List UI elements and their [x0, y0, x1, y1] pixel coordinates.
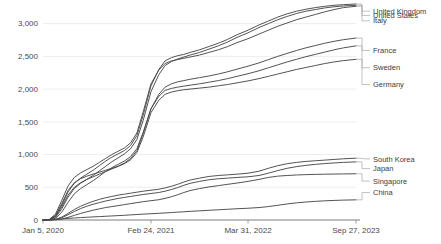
series-leader-lines: [356, 4, 370, 200]
series-line-italy: [43, 6, 356, 220]
y-axis-tick-label: 0: [34, 216, 39, 225]
series-label-singapore[interactable]: Singapore: [373, 177, 407, 186]
line-chart-container: 05001,0001,5002,0002,5003,000 Jan 5, 202…: [0, 0, 441, 244]
series-label-germany[interactable]: Germany: [373, 80, 404, 89]
series-line-sweden: [43, 46, 356, 220]
series-label-japan[interactable]: Japan: [373, 164, 393, 173]
leader-line-italy: [356, 6, 370, 21]
y-axis-tick-label: 3,000: [18, 19, 39, 28]
x-axis-tick-label: Mar 31, 2022: [224, 226, 272, 235]
series-label-france[interactable]: France: [373, 46, 396, 55]
y-axis-tick-labels: 05001,0001,5002,0002,5003,000: [18, 19, 39, 224]
y-axis-tick-label: 500: [25, 183, 39, 192]
x-axis-tick-labels: Jan 5, 2020Feb 24, 2021Mar 31, 2022Sep 2…: [22, 226, 380, 235]
series-line-united-states: [43, 5, 356, 220]
leader-line-germany: [356, 59, 370, 84]
gridlines-group: [43, 24, 356, 188]
x-axis-tick-label: Jan 5, 2020: [22, 226, 64, 235]
series-label-china[interactable]: China: [373, 188, 393, 197]
y-axis-tick-label: 2,000: [18, 85, 39, 94]
chart-canvas: 05001,0001,5002,0002,5003,000 Jan 5, 202…: [0, 0, 441, 244]
y-axis-tick-label: 1,000: [18, 150, 39, 159]
series-line-singapore: [43, 174, 356, 220]
leader-line-china: [356, 193, 370, 200]
series-line-france: [43, 38, 356, 220]
x-axis-tick-label: Feb 24, 2021: [127, 226, 175, 235]
y-axis-tick-label: 1,500: [18, 118, 39, 127]
leader-line-singapore: [356, 174, 370, 181]
series-labels-group: United KingdomUnited StatesItalyFranceSw…: [373, 7, 426, 197]
leader-line-france: [356, 38, 370, 50]
y-axis-tick-label: 2,500: [18, 52, 39, 61]
x-axis-tick-label: Sep 27, 2023: [332, 226, 380, 235]
series-label-south-korea[interactable]: South Korea: [373, 155, 416, 164]
leader-line-sweden: [356, 46, 370, 68]
x-axis-group: [43, 220, 360, 224]
leader-line-united-states: [356, 5, 370, 15]
series-label-italy[interactable]: Italy: [373, 16, 387, 25]
leader-line-japan: [356, 162, 370, 169]
leader-line-south-korea: [356, 158, 370, 159]
series-label-sweden[interactable]: Sweden: [373, 63, 400, 72]
